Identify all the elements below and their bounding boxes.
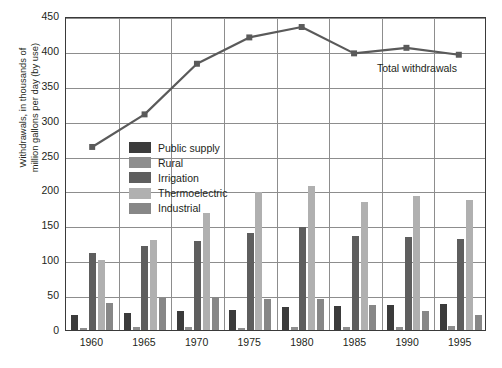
y-tick-label: 250 [27, 150, 59, 162]
legend: Public supplyRuralIrrigationThermoelectr… [129, 140, 227, 216]
legend-item: Thermoelectric [129, 186, 227, 201]
legend-label: Irrigation [158, 172, 199, 184]
y-tick-label: 400 [27, 45, 59, 57]
line-marker [89, 144, 95, 150]
total-withdrawals-annotation: Total withdrawals [377, 62, 457, 74]
line-marker [456, 52, 462, 58]
y-tick-label: 450 [27, 10, 59, 22]
legend-swatch [129, 157, 151, 168]
y-tick-label: 350 [27, 80, 59, 92]
y-tick-label: 100 [27, 254, 59, 266]
x-tick-label: 1965 [114, 336, 174, 348]
legend-label: Industrial [158, 202, 201, 214]
y-tick-label: 200 [27, 184, 59, 196]
legend-label: Rural [158, 157, 183, 169]
chart-root: Withdrawals, in thousands of million gal… [0, 0, 502, 368]
line-marker [246, 34, 252, 40]
legend-item: Industrial [129, 201, 227, 216]
line-marker [299, 24, 305, 30]
legend-item: Irrigation [129, 170, 227, 185]
x-tick-label: 1980 [272, 336, 332, 348]
legend-swatch [129, 203, 151, 214]
y-tick-label: 150 [27, 219, 59, 231]
x-tick-label: 1985 [324, 336, 384, 348]
x-tick-label: 1995 [430, 336, 490, 348]
legend-item: Rural [129, 155, 227, 170]
x-tick-label: 1960 [61, 336, 121, 348]
plot-area: Public supplyRuralIrrigationThermoelectr… [65, 17, 486, 331]
line-marker [351, 50, 357, 56]
legend-swatch [129, 142, 151, 153]
y-tick-label: 300 [27, 115, 59, 127]
legend-label: Public supply [158, 142, 220, 154]
legend-item: Public supply [129, 140, 227, 155]
legend-label: Thermoelectric [158, 187, 227, 199]
line-marker [142, 111, 148, 117]
legend-swatch [129, 172, 151, 183]
x-tick-label: 1990 [377, 336, 437, 348]
y-tick-label: 0 [27, 324, 59, 336]
line-marker [194, 61, 200, 67]
legend-swatch [129, 188, 151, 199]
x-tick-label: 1970 [167, 336, 227, 348]
y-tick-label: 50 [27, 289, 59, 301]
line-marker [403, 45, 409, 51]
x-tick-label: 1975 [219, 336, 279, 348]
